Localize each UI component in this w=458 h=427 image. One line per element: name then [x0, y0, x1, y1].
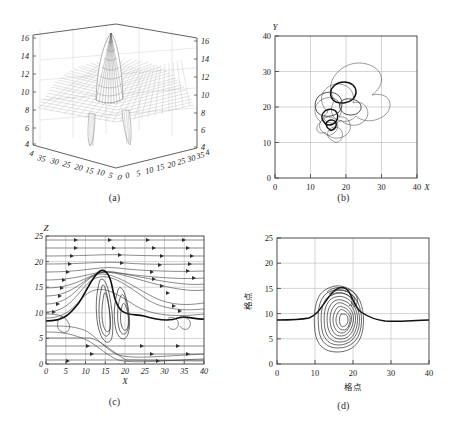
panel-b-y-axis-label: Y: [272, 22, 278, 32]
svg-text:5: 5: [135, 169, 141, 179]
svg-text:30: 30: [49, 156, 60, 167]
svg-text:0: 0: [117, 173, 123, 183]
panel-d: 25 20 15 10 5 0 0 10 20 30: [229, 214, 458, 427]
svg-text:30: 30: [377, 183, 385, 192]
svg-text:40: 40: [413, 183, 421, 192]
panel-c-x-ticks: 0 5 10 15 20 25 30 35 40: [44, 361, 208, 376]
svg-text:40: 40: [200, 367, 208, 376]
svg-text:25: 25: [62, 159, 72, 170]
surface3d-svg: 16 14 12 10 8 6 4 16 14: [0, 0, 229, 214]
panel-b-caption: (b): [229, 192, 458, 203]
figure-panel-grid: 16 14 12 10 8 6 4 16 14: [0, 0, 458, 427]
panel-b-contours-bold: [322, 82, 356, 130]
svg-text:10: 10: [265, 310, 273, 319]
contour-xz-svg: 25 20 15 10 5 0 0 10 20 30: [229, 214, 458, 427]
svg-text:10: 10: [306, 183, 314, 192]
svg-text:0: 0: [267, 174, 271, 183]
panel-d-caption: (d): [229, 400, 458, 411]
svg-text:10: 10: [144, 165, 154, 176]
svg-text:16: 16: [201, 37, 210, 46]
svg-text:0: 0: [44, 367, 48, 376]
svg-text:12: 12: [21, 70, 29, 79]
panel-b-y-ticks: 40 30 20 10 0: [263, 32, 279, 183]
svg-text:25: 25: [141, 367, 149, 376]
panel-d-x-axis-label: 格点: [344, 382, 362, 392]
svg-text:40: 40: [263, 32, 271, 41]
panel-d-x-ticks: 0 10 20 30 40: [275, 360, 433, 378]
panel-a-caption: (a): [0, 192, 229, 203]
svg-text:15: 15: [265, 285, 273, 294]
svg-text:10: 10: [35, 309, 43, 318]
panel-c-caption: (c): [0, 396, 229, 407]
svg-text:20: 20: [121, 367, 129, 376]
panel-a-plot: 16 14 12 10 8 6 4 16 14: [0, 0, 229, 214]
panel-a-z-left-ticks: 16 14 12 10 8 6 4: [21, 34, 36, 149]
svg-text:8: 8: [201, 109, 205, 118]
svg-text:4: 4: [25, 140, 29, 149]
svg-text:6: 6: [25, 124, 30, 133]
svg-text:0: 0: [273, 183, 277, 192]
panel-a: 16 14 12 10 8 6 4 16 14: [0, 0, 229, 214]
svg-text:25: 25: [265, 234, 273, 243]
svg-text:30: 30: [185, 153, 196, 164]
panel-c-y-axis-label: Z: [43, 223, 49, 233]
svg-text:5: 5: [269, 335, 273, 344]
contour-xy-svg: 40 30 20 10 0 0 10 20 30 40: [229, 0, 458, 214]
panel-d-plot: 25 20 15 10 5 0 0 10 20 30: [229, 214, 458, 427]
svg-text:40: 40: [425, 369, 433, 378]
svg-text:0: 0: [124, 171, 130, 181]
panel-a-y-ticks: 0 5 10 15 20 25 30 35 4: [124, 148, 210, 181]
svg-text:0: 0: [39, 360, 43, 369]
svg-text:25: 25: [35, 232, 43, 241]
svg-text:10: 10: [96, 167, 106, 178]
svg-text:20: 20: [263, 103, 271, 112]
panel-a-z-right-ticks: 16 14 12 10 8 6 4: [194, 37, 210, 152]
panel-c-x-axis-label: X: [121, 376, 128, 386]
svg-text:4: 4: [29, 149, 35, 159]
svg-text:15: 15: [101, 367, 109, 376]
svg-text:30: 30: [263, 68, 271, 77]
svg-text:10: 10: [81, 367, 89, 376]
svg-text:12: 12: [201, 73, 209, 82]
svg-text:20: 20: [349, 369, 357, 378]
svg-text:0: 0: [269, 360, 273, 369]
panel-d-y-ticks: 25 20 15 10 5 0: [265, 234, 281, 369]
svg-text:10: 10: [311, 369, 319, 378]
svg-text:8: 8: [25, 106, 29, 115]
svg-text:30: 30: [387, 369, 395, 378]
svg-text:15: 15: [85, 165, 95, 176]
svg-text:14: 14: [21, 52, 29, 61]
svg-text:16: 16: [21, 34, 30, 43]
svg-text:6: 6: [201, 126, 206, 135]
svg-text:10: 10: [263, 139, 271, 148]
panel-c-y-ticks: 25 20 15 10 5 0: [35, 232, 49, 369]
svg-text:35: 35: [36, 153, 47, 164]
panel-b-gridlines: [275, 36, 417, 178]
svg-text:10: 10: [21, 88, 29, 97]
svg-text:20: 20: [35, 258, 43, 267]
svg-text:5: 5: [64, 367, 68, 376]
svg-text:5: 5: [108, 171, 114, 181]
svg-text:15: 15: [155, 162, 165, 173]
svg-text:15: 15: [35, 283, 43, 292]
svg-text:14: 14: [201, 55, 209, 64]
panel-c: 25 20 15 10 5 0 0 5 10: [0, 214, 229, 427]
svg-text:20: 20: [74, 162, 84, 173]
svg-text:35: 35: [179, 367, 188, 376]
panel-c-arrowheads: [52, 238, 196, 363]
svg-text:20: 20: [342, 183, 350, 192]
svg-text:4: 4: [204, 148, 210, 158]
panel-d-y-axis-label: 格点: [243, 292, 253, 310]
panel-b: 40 30 20 10 0 0 10 20 30 40: [229, 0, 458, 214]
panel-b-x-axis-label: X: [423, 182, 430, 192]
svg-text:10: 10: [201, 91, 209, 100]
svg-text:30: 30: [159, 367, 168, 376]
panel-b-x-ticks: 0 10 20 30 40: [273, 174, 421, 192]
panel-b-contours-outer: [315, 63, 390, 142]
panel-b-plot: 40 30 20 10 0 0 10 20 30 40: [229, 0, 458, 214]
svg-text:20: 20: [265, 259, 273, 268]
svg-text:25: 25: [176, 156, 186, 167]
svg-text:20: 20: [166, 159, 176, 170]
svg-text:0: 0: [275, 369, 279, 378]
svg-text:5: 5: [39, 334, 43, 343]
